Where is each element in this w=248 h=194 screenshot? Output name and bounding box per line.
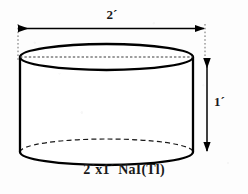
height-dimension-label: 1´ bbox=[214, 95, 225, 108]
cylinder-body bbox=[20, 44, 193, 165]
figure-canvas: 2´ 1´ 2´x1´ NaI(Tl) bbox=[0, 0, 248, 194]
figure-caption: 2´x1´ NaI(Tl) bbox=[0, 163, 248, 177]
width-dimension-label: 2´ bbox=[0, 8, 224, 21]
cylinder-side-surface bbox=[20, 57, 193, 165]
